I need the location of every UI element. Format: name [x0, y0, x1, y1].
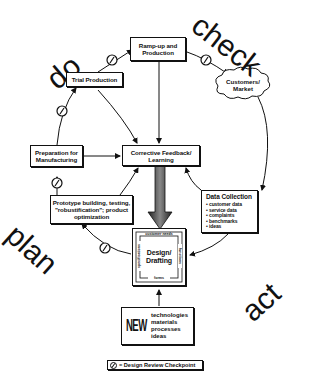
checkpoint-icon-design-prototype [100, 243, 110, 253]
legend-label: = Design Review Checkpoint [119, 362, 195, 368]
data-collection-box: Data Collection • customer data • servic… [201, 190, 258, 233]
prototype-box: Prototype building, testing, "robustific… [50, 195, 133, 224]
data-collection-title: Data Collection [206, 193, 252, 200]
arrow-datacollection-to-feedback [186, 168, 201, 190]
checkpoint-icon-prototype-prep [52, 178, 62, 188]
trial-production-box: Trial Production [66, 72, 123, 87]
prototype-label: Prototype building, testing, "robustific… [51, 199, 132, 220]
checkpoint-icon-prep-trial [57, 106, 67, 116]
preparation-label: Preparation for Manufacturing [31, 149, 82, 163]
new-inputs-list: technologies materials processes ideas [151, 312, 188, 340]
corrective-feedback-box: Corrective Feedback/ Learning [122, 145, 200, 166]
arrow-prototype-to-feedback [120, 168, 138, 195]
corrective-feedback-label: Corrective Feedback/ Learning [123, 149, 199, 163]
big-arrow-feedback-to-design [148, 166, 172, 229]
arrow-customers-to-datacollection [258, 97, 268, 190]
arrow-trial-to-feedback [98, 90, 137, 143]
list-item: processes [151, 326, 188, 333]
checkpoint-icon-trial-rampup [107, 55, 117, 65]
arrow-datacollection-to-design [190, 234, 228, 255]
design-drafting-title: Design/ Drafting [146, 249, 172, 265]
list-item: • ideas [206, 224, 242, 230]
customers-market-label: Customers/ Market [220, 78, 266, 92]
legend: = Design Review Checkpoint [107, 360, 203, 370]
design-label-bottom: forms [148, 276, 170, 280]
arrow-preparation-to-trial [57, 88, 76, 145]
new-word: NEW [126, 317, 139, 335]
trial-production-label: Trial Production [72, 76, 118, 83]
design-label-right: functions [178, 244, 182, 268]
checkpoint-icon-rampup-customers [201, 55, 211, 65]
list-item: ideas [151, 333, 188, 340]
new-inputs-box: NEW technologies materials processes ide… [121, 307, 194, 345]
design-label-top: customer needs [143, 233, 175, 237]
ramp-up-box: Ramp-up and Production [130, 37, 186, 61]
preparation-box: Preparation for Manufacturing [30, 145, 83, 167]
list-item: materials [151, 319, 188, 326]
data-collection-list: • customer data • service data • complai… [206, 202, 242, 230]
list-item: technologies [151, 312, 188, 319]
checkpoint-circle-icon [110, 362, 117, 369]
design-label-left: specifications [137, 241, 141, 271]
ramp-up-label: Ramp-up and Production [131, 42, 185, 56]
